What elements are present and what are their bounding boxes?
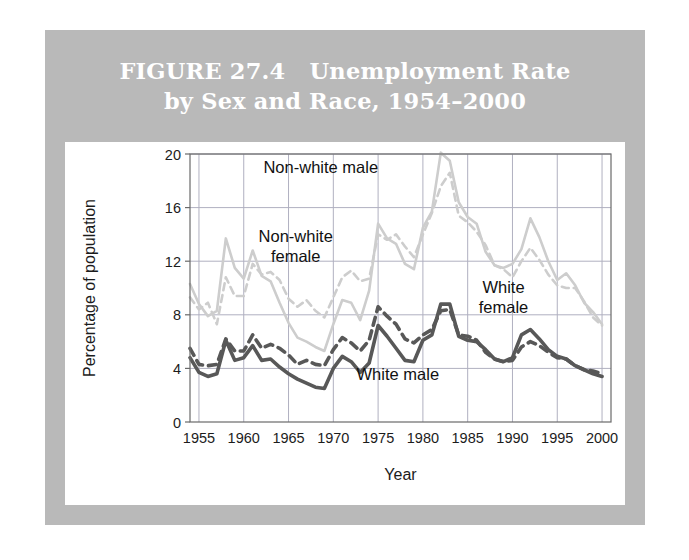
annotation-white-female: female bbox=[479, 298, 529, 316]
figure-title-line-2: by Sex and Race, 1954–2000 bbox=[164, 86, 526, 116]
x-tick-label: 1970 bbox=[317, 430, 349, 446]
y-tick-label: 4 bbox=[173, 361, 181, 377]
y-tick-label: 20 bbox=[165, 147, 181, 163]
x-tick-label: 1990 bbox=[496, 430, 528, 446]
x-tick-label: 1975 bbox=[362, 430, 394, 446]
chart-card: 048121620 195519601965197019751980198519… bbox=[65, 142, 625, 505]
annotation-non-white-male: Non-white male bbox=[263, 158, 378, 176]
y-tick-label: 16 bbox=[165, 200, 181, 216]
figure-title-line-1: FIGURE 27.4 Unemployment Rate bbox=[119, 56, 570, 86]
annotation-white-female: White bbox=[482, 278, 524, 296]
figure-title-band: FIGURE 27.4 Unemployment Rate by Sex and… bbox=[45, 30, 645, 142]
x-tick-label: 1955 bbox=[183, 430, 215, 446]
x-tick-label: 2000 bbox=[586, 430, 618, 446]
x-tick-label: 1995 bbox=[541, 430, 573, 446]
series-line-non-white-male bbox=[190, 153, 602, 351]
x-tick-label: 1960 bbox=[228, 430, 260, 446]
unemployment-rate-line-chart: 048121620 195519601965197019751980198519… bbox=[65, 142, 625, 505]
x-axis-tick-labels: 1955196019651970197519801985199019952000 bbox=[183, 430, 618, 446]
annotation-white-male: White male bbox=[357, 365, 440, 383]
y-tick-label: 0 bbox=[173, 415, 181, 431]
annotation-non-white-female: Non-white bbox=[259, 227, 333, 245]
y-axis-title: Percentage of population bbox=[81, 199, 98, 377]
x-tick-label: 1965 bbox=[272, 430, 304, 446]
x-tick-label: 1985 bbox=[452, 430, 484, 446]
annotation-non-white-female: female bbox=[271, 247, 321, 265]
figure-panel: FIGURE 27.4 Unemployment Rate by Sex and… bbox=[45, 30, 645, 525]
y-tick-label: 8 bbox=[173, 307, 181, 323]
series-layer bbox=[190, 153, 602, 389]
y-axis-tick-labels: 048121620 bbox=[165, 147, 190, 431]
series-line-non-white-female bbox=[190, 173, 602, 326]
y-tick-label: 12 bbox=[165, 254, 181, 270]
x-axis-title: Year bbox=[384, 466, 417, 483]
x-tick-label: 1980 bbox=[407, 430, 439, 446]
